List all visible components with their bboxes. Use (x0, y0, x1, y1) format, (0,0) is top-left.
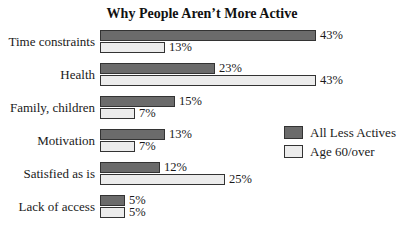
category-label: Health (60, 67, 95, 83)
legend-swatch-light (284, 145, 303, 158)
bar-age-60-over (100, 207, 125, 218)
bar-row: Lack of access5%5% (0, 195, 404, 219)
bar-age-60-over (100, 108, 135, 119)
bar-all-less-actives (100, 63, 215, 74)
value-label: 13% (169, 128, 192, 140)
bar-age-60-over (100, 75, 316, 86)
legend-label: Age 60/over (310, 144, 375, 160)
value-label: 7% (139, 107, 156, 119)
value-label: 25% (229, 173, 252, 185)
value-label: 43% (320, 29, 343, 41)
category-label: Satisfied as is (24, 166, 96, 182)
bar-all-less-actives (100, 96, 175, 107)
value-label: 23% (219, 62, 242, 74)
category-label: Family, children (10, 100, 95, 116)
bar-row: Time constraints43%13% (0, 30, 404, 54)
legend-label: All Less Actives (310, 125, 396, 141)
bar-row: Health23%43% (0, 63, 404, 87)
value-label: 13% (169, 41, 192, 53)
bar-row: Family, children15%7% (0, 96, 404, 120)
bar-age-60-over (100, 42, 165, 53)
bar-row: Satisfied as is12%25% (0, 162, 404, 186)
value-label: 12% (164, 161, 187, 173)
bar-all-less-actives (100, 30, 316, 41)
chart-title: Why People Aren’t More Active (0, 6, 404, 22)
bar-all-less-actives (100, 162, 160, 173)
value-label: 43% (320, 74, 343, 86)
category-label: Time constraints (8, 34, 95, 50)
category-label: Motivation (37, 133, 95, 149)
value-label: 5% (129, 206, 146, 218)
value-label: 15% (179, 95, 202, 107)
bar-age-60-over (100, 174, 225, 185)
legend-swatch-dark (284, 126, 303, 139)
value-label: 7% (139, 140, 156, 152)
bar-all-less-actives (100, 195, 125, 206)
bar-age-60-over (100, 141, 135, 152)
category-label: Lack of access (18, 199, 95, 215)
